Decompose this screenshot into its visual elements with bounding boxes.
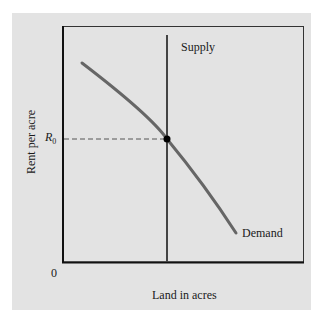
origin-label: 0 bbox=[51, 266, 57, 281]
x-axis-label: Land in acres bbox=[152, 288, 217, 303]
demand-label: Demand bbox=[242, 226, 283, 241]
supply-label: Supply bbox=[181, 40, 215, 55]
equilibrium-point bbox=[164, 136, 171, 143]
r0-label: R0 bbox=[45, 130, 56, 146]
plot-area bbox=[0, 0, 321, 322]
r-subscript: 0 bbox=[52, 137, 56, 146]
demand-curve bbox=[82, 63, 236, 233]
y-axis-label: Rent per acre bbox=[24, 110, 39, 174]
